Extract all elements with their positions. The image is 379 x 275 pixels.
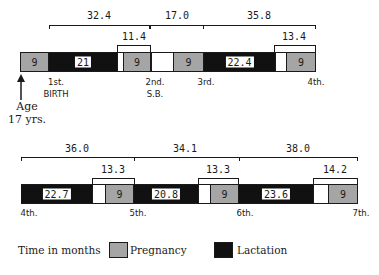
event-sublabel: BIRTH	[43, 88, 68, 100]
lactation-segment: 22.4	[204, 52, 275, 72]
event-4th: 4th.	[21, 207, 38, 219]
span-label-32-4: 32.4	[87, 10, 111, 21]
sub-span-label-13-3: 13.3	[101, 164, 125, 175]
segment-value: 9	[29, 57, 39, 68]
start-age-label: Age 17 yrs.	[5, 100, 49, 126]
segment-value: 9	[114, 189, 124, 200]
pregnancy-segment: 9	[20, 52, 49, 72]
pregnancy-swatch	[109, 242, 128, 258]
event-label: 2nd.	[146, 76, 165, 88]
segment-value: 9	[132, 57, 142, 68]
sub-span-bracket	[274, 45, 316, 52]
pregnancy-segment: 9	[328, 184, 358, 204]
lactation-segment: 22.7	[21, 184, 92, 204]
segment-value: 22.4	[225, 57, 253, 68]
age-label: Age	[5, 100, 49, 113]
event-sublabel: S.B.	[146, 88, 165, 100]
event-3rd: 3rd.	[198, 76, 215, 88]
span-bracket	[134, 157, 240, 161]
event-2nd-sb: 2nd. S.B.	[146, 76, 165, 100]
lactation-swatch	[214, 242, 233, 258]
pregnancy-segment: 9	[105, 184, 134, 204]
segment-value: 21	[75, 57, 91, 68]
event-4th: 4th.	[308, 76, 325, 88]
interval-segment	[92, 184, 105, 204]
segment-value: 9	[219, 189, 229, 200]
span-bracket	[21, 157, 135, 161]
pregnancy-segment: 9	[123, 52, 151, 72]
lactation-segment: 23.6	[239, 184, 313, 204]
interval-segment	[275, 52, 286, 72]
event-label: 3rd.	[198, 76, 215, 88]
sub-span-label-14-2: 14.2	[323, 164, 347, 175]
legend-lactation-label: Lactation	[237, 244, 287, 256]
event-1st-birth: 1st. BIRTH	[43, 76, 68, 100]
event-label: 1st.	[43, 76, 68, 88]
event-label: 4th.	[308, 76, 325, 88]
event-5th: 5th.	[130, 207, 147, 219]
span-label-34-1: 34.1	[173, 143, 197, 154]
span-bracket	[150, 25, 204, 29]
event-7th: 7th.	[353, 207, 370, 219]
pregnancy-segment: 9	[286, 52, 316, 72]
span-bracket	[203, 25, 316, 29]
lactation-segment: 20.8	[134, 184, 198, 204]
pregnancy-segment: 9	[210, 184, 239, 204]
segment-value: 20.8	[152, 189, 180, 200]
lactation-segment: 21	[49, 52, 117, 72]
sub-span-label-13-3: 13.3	[206, 164, 230, 175]
span-label-36-0: 36.0	[65, 143, 89, 154]
event-6th: 6th.	[237, 207, 254, 219]
interval-segment	[313, 184, 328, 204]
span-bracket	[239, 157, 358, 161]
legend-caption: Time in months	[18, 244, 101, 256]
segment-value: 9	[183, 57, 193, 68]
span-label-17-0: 17.0	[165, 10, 189, 21]
arrow-up-icon	[16, 74, 26, 100]
span-label-35-8: 35.8	[247, 10, 271, 21]
segment-value: 9	[296, 57, 306, 68]
sub-span-label-11-4: 11.4	[122, 31, 146, 42]
sub-span-label-13-4: 13.4	[282, 31, 306, 42]
segment-value: 22.7	[42, 189, 70, 200]
interval-segment	[151, 52, 174, 72]
pregnancy-segment: 9	[173, 52, 204, 72]
span-label-38-0: 38.0	[286, 143, 310, 154]
legend-pregnancy-label: Pregnancy	[130, 244, 187, 256]
age-value: 17 yrs.	[5, 113, 49, 126]
segment-value: 23.6	[262, 189, 290, 200]
sub-span-bracket	[117, 45, 151, 52]
interval-segment	[198, 184, 210, 204]
segment-value: 9	[338, 189, 348, 200]
span-bracket	[49, 25, 150, 29]
